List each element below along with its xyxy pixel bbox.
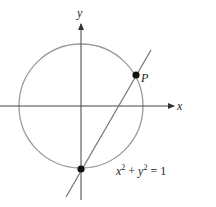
point-p-label: P: [140, 71, 149, 85]
point-bottom: [77, 165, 84, 172]
point-p: [132, 71, 139, 78]
circle-equation: x2 + y2 = 1: [115, 163, 166, 178]
unit-circle-diagram: y x P x2 + y2 = 1: [0, 0, 216, 207]
y-axis-label: y: [76, 6, 83, 20]
x-axis-label: x: [176, 99, 183, 113]
